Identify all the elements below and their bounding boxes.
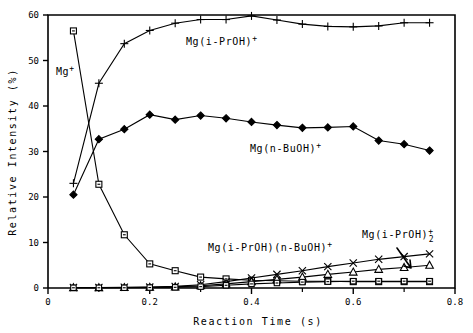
series-markers — [70, 111, 433, 198]
ann-mg-superscript: + — [69, 64, 74, 73]
y-axis-tick-label: 40 — [28, 101, 39, 111]
chart-figure: 0102030405060 00.20.40.60.8 Relative Int… — [0, 0, 473, 333]
relative-intensity-vs-reaction-time-chart: 0102030405060 00.20.40.60.8 Relative Int… — [0, 0, 473, 333]
marker-solid-diamond — [401, 141, 408, 148]
marker-solid-diamond — [197, 112, 204, 119]
marker-solid-diamond — [222, 115, 229, 122]
ann-mixed-superscript: + — [327, 240, 332, 249]
marker-solid-diamond — [299, 124, 306, 131]
ann-iproh2-text: Mg(i-PrOH) — [362, 229, 428, 240]
ann-iproh: Mg(i-PrOH)+ — [186, 34, 258, 47]
marker-solid-diamond — [146, 111, 153, 118]
ann-iproh2-subscript: 2 — [429, 235, 434, 244]
x-axis: 00.20.40.60.8 — [45, 288, 463, 307]
marker-solid-diamond — [70, 191, 77, 198]
marker-solid-diamond — [426, 147, 433, 154]
y-axis-tick-label: 30 — [28, 147, 39, 157]
y-axis-tick-label: 10 — [28, 238, 39, 248]
series-3 — [70, 111, 433, 198]
marker-solid-diamond — [95, 136, 102, 143]
marker-solid-diamond — [350, 123, 357, 130]
y-axis-title: Relative Intensity (%) — [7, 68, 18, 236]
ann-mixed-text: Mg(i-PrOH)(n-BuOH) — [208, 242, 327, 253]
x-axis-tick-label: 0.2 — [142, 297, 158, 307]
marker-solid-diamond — [375, 137, 382, 144]
ann-mg: Mg+ — [56, 64, 75, 77]
x-axis-title: Reaction Time (s) — [193, 316, 323, 327]
x-axis-tick-label: 0 — [45, 297, 50, 307]
marker-solid-diamond — [121, 126, 128, 133]
marker-solid-diamond — [324, 124, 331, 131]
ann-nbuoh-superscript: + — [316, 141, 321, 150]
ann-mg-text: Mg — [56, 66, 69, 77]
y-axis: 0102030405060 — [28, 10, 48, 293]
y-axis-tick-label: 50 — [28, 56, 39, 66]
marker-open-triangle — [426, 261, 434, 268]
marker-solid-diamond — [273, 122, 280, 129]
y-axis-tick-label: 60 — [28, 10, 39, 20]
ann-nbuoh-text: Mg(n-BuOH) — [250, 143, 316, 154]
ann-iproh-text: Mg(i-PrOH) — [186, 36, 252, 47]
y-axis-tick-label: 0 — [34, 283, 39, 293]
x-axis-tick-label: 0.4 — [243, 297, 259, 307]
series-line — [73, 115, 429, 195]
ann-nbuoh: Mg(n-BuOH)+ — [250, 141, 322, 154]
ann-mixed: Mg(i-PrOH)(n-BuOH)+ — [208, 240, 333, 253]
x-axis-tick-label: 0.6 — [345, 297, 361, 307]
ann-iproh2: Mg(i-PrOH)+2 — [362, 227, 434, 244]
marker-solid-diamond — [248, 118, 255, 125]
x-axis-tick-label: 0.8 — [447, 297, 463, 307]
marker-solid-diamond — [172, 116, 179, 123]
y-axis-tick-label: 20 — [28, 192, 39, 202]
ann-iproh-superscript: + — [252, 34, 257, 43]
